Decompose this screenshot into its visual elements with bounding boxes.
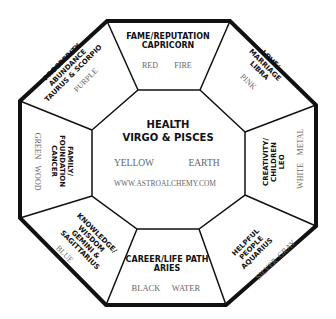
sector-family-label-1: FAMILY/ bbox=[66, 146, 74, 176]
center-subtitle: VIRGO & PISCES bbox=[122, 132, 213, 143]
sector-family-color: GREEN bbox=[33, 133, 42, 160]
center-website: WWW.ASTROALCHEMY.COM bbox=[114, 179, 216, 188]
sector-creativity-color: WHITE bbox=[296, 163, 305, 189]
sector-fame-label-1: FAME/REPUTATION bbox=[126, 32, 209, 41]
sector-creativity-element: METAL bbox=[296, 128, 305, 155]
center-color: YELLOW bbox=[114, 158, 154, 168]
sector-creativity-label-3: LEO bbox=[278, 154, 286, 169]
sector-family-element: WOOD bbox=[33, 166, 42, 191]
sector-career-label-1: CAREER/LIFE PATH bbox=[126, 255, 209, 264]
center-title: HEALTH bbox=[147, 119, 190, 130]
sector-family-label-2: FOUNDATION bbox=[58, 135, 66, 187]
sector-career-label-2: ARIES bbox=[154, 264, 181, 273]
sector-fame-color: RED bbox=[142, 61, 158, 70]
sector-career-element: WATER bbox=[172, 283, 201, 293]
bagua-diagram: FAME/REPUTATION CAPRICORN RED FIRE PROSP… bbox=[0, 0, 336, 319]
sector-family-label-3: CANCER bbox=[50, 145, 58, 177]
sector-fame-element: FIRE bbox=[174, 61, 191, 70]
center-element: EARTH bbox=[188, 158, 219, 168]
sector-creativity-label-1: CREATIVITY/ bbox=[262, 138, 270, 186]
sector-career-color: BLACK bbox=[132, 283, 162, 293]
sector-creativity-label-2: CHILDREN bbox=[270, 142, 278, 182]
sector-fame-label-2: CAPRICORN bbox=[142, 41, 195, 50]
